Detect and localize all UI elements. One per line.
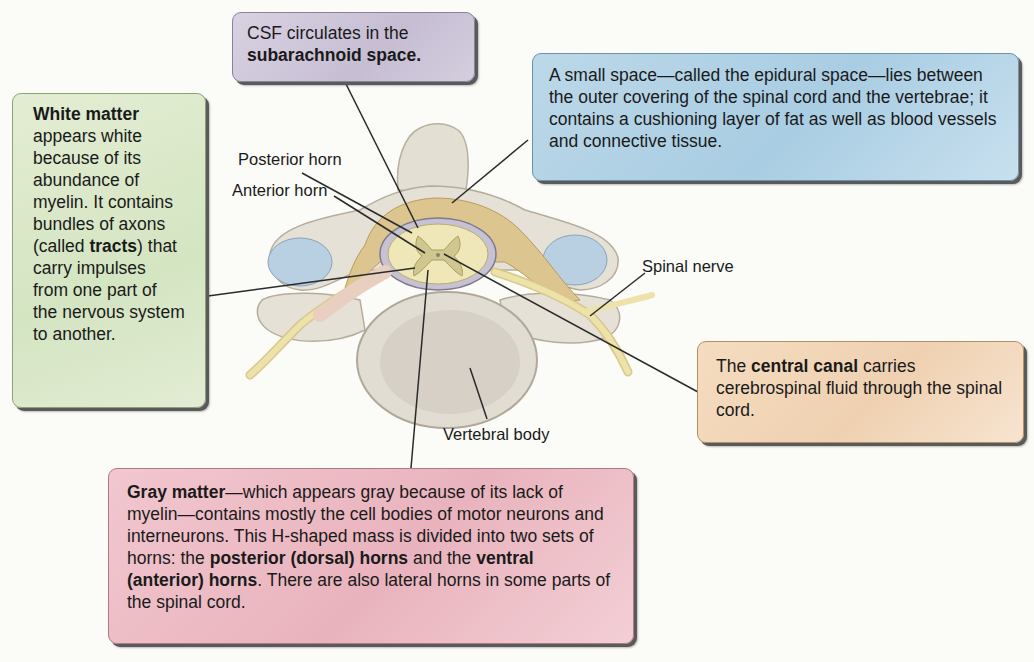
- central-canal-term: central canal: [751, 356, 858, 376]
- gray-matter-text-2: and the: [408, 548, 476, 568]
- gray-matter-title: Gray matter: [127, 482, 225, 502]
- label-spinal-nerve: Spinal nerve: [642, 257, 734, 276]
- label-vertebral-body: Vertebral body: [443, 425, 549, 444]
- csf-bold: subarachnoid space.: [247, 45, 421, 65]
- central-canal: [436, 253, 440, 257]
- callout-epidural-space: A small space—called the epidural space—…: [532, 53, 1019, 181]
- callout-white-matter: White matter appears white because of it…: [12, 93, 206, 408]
- label-posterior-horn: Posterior horn: [238, 150, 342, 169]
- canal-text-1: The: [716, 356, 751, 376]
- spinous-process: [397, 124, 468, 195]
- callout-gray-matter: Gray matter—which appears gray because o…: [108, 468, 634, 644]
- facet-left: [268, 238, 332, 286]
- callout-central-canal: The central canal carries cerebrospinal …: [697, 341, 1024, 443]
- csf-text: CSF circulates in the: [247, 23, 408, 43]
- epidural-text: A small space—called the epidural space—…: [549, 65, 996, 151]
- tracts-term: tracts: [89, 236, 137, 256]
- posterior-horns-term: posterior (dorsal) horns: [210, 548, 408, 568]
- label-anterior-horn: Anterior horn: [232, 181, 327, 200]
- white-matter-title: White matter: [33, 104, 139, 124]
- callout-csf: CSF circulates in the subarachnoid space…: [232, 12, 475, 82]
